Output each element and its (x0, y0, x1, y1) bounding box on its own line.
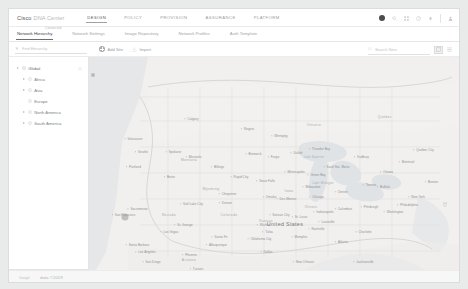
map-city-label: Buffalo (380, 185, 390, 189)
map-city-label: Dallas (264, 250, 273, 254)
map-city-label: Indianapolis (316, 210, 333, 214)
nav-item-design[interactable]: DESIGN (86, 11, 107, 25)
map-region-label: Wyoming (203, 187, 220, 191)
map-city-label: Seattle (138, 150, 148, 154)
map-city-label: Quebec City (416, 148, 434, 152)
map-region-label: Arizona (182, 258, 196, 262)
map-city-label: Kansas City (272, 213, 289, 217)
primary-nav: DESIGN POLICY PROVISION ASSURANCE PLATFO… (86, 11, 280, 25)
map-city-label: Jacksonville (356, 260, 373, 264)
user-icon[interactable] (448, 16, 453, 21)
brand-vendor: Cisco (17, 15, 32, 21)
add-site-button[interactable]: Add Site (99, 46, 123, 52)
import-icon (132, 47, 137, 52)
map-water-label: Lake Superior (304, 155, 325, 159)
grid-icon[interactable] (404, 16, 409, 21)
map-city-label: Winnipeg (274, 134, 287, 138)
nav-divider (440, 14, 441, 23)
search-icon (368, 47, 372, 51)
search-sites-placeholder: Search Sites (375, 47, 397, 52)
site-map[interactable]: Lake Superior Lake Michigan Gulf of Mexi… (89, 57, 459, 283)
chevron-right-icon[interactable] (23, 122, 26, 125)
nav-item-policy[interactable]: POLICY (123, 11, 143, 25)
map-city-label: Memphis (295, 235, 308, 239)
map-city-label: Las Vegas (164, 230, 179, 234)
tab-image-repository[interactable]: Image Repository (125, 28, 159, 40)
site-marker[interactable] (122, 214, 129, 221)
map-city-label: Salt Lake City (183, 202, 203, 206)
map-city-label: Cheyenne (222, 192, 237, 196)
map-city-label: Sault Ste. Marie (327, 165, 350, 169)
notification-dot-icon[interactable] (379, 15, 385, 21)
tab-network-profiles[interactable]: Network Profiles (179, 28, 210, 40)
search-icon[interactable] (392, 16, 397, 21)
map-city-label: Duluth (293, 151, 302, 155)
map-city-label: Bismarck (248, 152, 261, 156)
nav-item-assurance[interactable]: ASSURANCE (205, 11, 237, 25)
tree-item-europe[interactable]: Europe (9, 96, 88, 107)
chevron-right-icon (23, 100, 26, 103)
map-city-label: Phoenix (185, 253, 197, 257)
chevron-right-icon[interactable] (23, 78, 26, 81)
toolbar-right-actions: Search Sites (368, 42, 454, 57)
import-button[interactable]: Import (132, 47, 151, 52)
map-city-label: Ottawa (383, 170, 393, 174)
help-icon[interactable]: ? (416, 16, 421, 21)
cisco-dna-center-logo[interactable]: Cisco DNA Center (17, 15, 64, 21)
chevron-right-icon[interactable] (17, 67, 20, 70)
tree-item-asia[interactable]: Asia (9, 85, 88, 96)
tab-auth-template[interactable]: Auth Template (230, 28, 257, 40)
find-hierarchy-input[interactable]: Find Hierarchy (15, 44, 87, 54)
map-city-label: Wichita (260, 223, 271, 227)
map-city-label: Vancouver (127, 137, 142, 141)
map-region-label: Colorado (221, 213, 238, 217)
chevron-right-icon[interactable] (23, 111, 26, 114)
tab-network-settings[interactable]: Network Settings (72, 28, 104, 40)
search-sites-input[interactable]: Search Sites (368, 45, 430, 55)
tree-item-north-america[interactable]: North America (9, 107, 88, 118)
map-city-label: Denver (222, 201, 232, 205)
map-city-label: Milwaukee (305, 185, 320, 189)
top-nav-actions: ? (379, 9, 453, 27)
globe-icon (28, 110, 32, 114)
map-city-label: Boston (428, 180, 438, 184)
map-city-label: Santa Fe (215, 235, 228, 239)
brand-product: DNA Center (34, 15, 65, 21)
map-pin-icon[interactable] (443, 202, 448, 207)
list-view-button[interactable] (445, 46, 454, 54)
globe-icon (22, 66, 26, 70)
map-region-label: Illinois (305, 205, 318, 209)
map-city-label: Santa Barbara (129, 243, 150, 247)
bell-icon[interactable] (428, 16, 433, 21)
map-view-button[interactable] (434, 46, 443, 54)
map-city-label: Sudbury (357, 155, 369, 159)
import-label: Import (139, 47, 151, 52)
map-city-label: Fargo (271, 155, 279, 159)
nav-item-provision[interactable]: PROVISION (159, 11, 188, 25)
chevron-right-icon[interactable] (23, 89, 26, 92)
map-city-label: Detroit (338, 190, 347, 194)
map-city-label: Atlanta (338, 240, 348, 244)
map-city-label: Toronto (366, 183, 377, 187)
map-city-label: Sioux Falls (259, 179, 275, 183)
map-city-label: Thunder Bay (312, 147, 330, 151)
map-city-label: Pittsburgh (364, 205, 378, 209)
map-city-label: Missoula (189, 155, 202, 159)
tree-label-africa: Africa (34, 77, 45, 82)
tree-item-africa[interactable]: Africa (9, 74, 88, 85)
map-city-label: Billings (214, 165, 224, 169)
gear-icon[interactable] (78, 67, 82, 71)
site-marker[interactable] (91, 73, 95, 77)
map-attribution-bar: Google data ©2019 (9, 270, 459, 283)
map-city-label: Des Moines (280, 197, 297, 201)
nav-item-platform[interactable]: PLATFORM (253, 11, 281, 25)
map-city-label: Sacramento (130, 207, 147, 211)
map-city-label: New Orleans (296, 260, 314, 264)
map-city-label: Montreal (402, 160, 414, 164)
screen: Cisco DNA Center DESIGN POLICY PROVISION… (0, 0, 468, 289)
tab-network-hierarchy[interactable]: Network Hierarchy (17, 28, 52, 40)
tree-label-asia: Asia (34, 88, 42, 93)
page-body: Global Africa Asi (9, 57, 459, 283)
tree-item-south-america[interactable]: South America (9, 118, 88, 129)
tree-item-global[interactable]: Global (9, 63, 88, 74)
